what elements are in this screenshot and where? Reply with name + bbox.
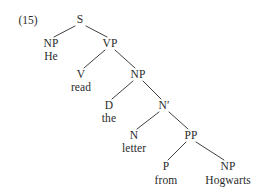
tree-terminal-He: He [44, 50, 58, 62]
tree-node-VP: VP [102, 37, 117, 49]
tree-terminal-Hogwarts: Hogwarts [205, 174, 251, 186]
tree-branch-VP-V [84, 50, 105, 68]
tree-branch-Nbar-N [137, 112, 159, 129]
tree-node-Nbar: N′ [158, 99, 169, 111]
tree-node-N: N [130, 129, 139, 141]
syntax-tree-figure: SNPHeVPVreadNPDtheN′NletterPPPfromNPHogw… [0, 0, 276, 194]
tree-node-NP2: NP [130, 68, 145, 80]
tree-branch-Nbar-PP [169, 112, 188, 129]
tree-node-NP3: NP [220, 160, 235, 172]
tree-terminal-read: read [71, 81, 91, 93]
tree-node-V: V [77, 68, 86, 80]
tree-terminal-the: the [102, 112, 116, 124]
tree-branch-S-VP [86, 26, 107, 37]
tree-branch-NP2-D [112, 81, 133, 99]
tree-node-NP1: NP [43, 37, 58, 49]
tree-branch-PP-NP3 [196, 142, 224, 160]
tree-node-S: S [77, 13, 84, 25]
tree-branch-NP2-Nbar [143, 81, 161, 99]
tree-branch-S-NP1 [54, 26, 75, 37]
tree-node-D: D [105, 99, 114, 111]
example-number: (15) [18, 14, 37, 26]
tree-terminal-from: from [155, 174, 178, 186]
tree-branch-VP-NP2 [115, 50, 135, 68]
tree-terminal-letter: letter [122, 142, 146, 154]
tree-branch-PP-P [168, 142, 186, 160]
tree-node-PP: PP [184, 129, 197, 141]
tree-node-P: P [163, 160, 170, 172]
